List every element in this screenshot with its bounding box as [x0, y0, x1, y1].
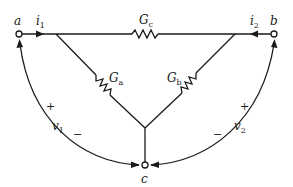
node-c-terminal [142, 162, 148, 168]
voltage-arc-v1 [20, 44, 139, 165]
v1-arrow-head-c [131, 162, 140, 169]
v1-arrow-head-a [17, 39, 24, 48]
v2-plus-sign: + [240, 100, 249, 113]
branch-a-wire-bottom [110, 95, 145, 128]
node-c-label: c [141, 172, 148, 186]
branch-b-wire-bottom [145, 93, 182, 128]
v1-minus-sign: − [73, 128, 82, 141]
v1-plus-sign: + [46, 100, 55, 113]
node-b-label: b [270, 14, 278, 28]
current-i2-arrow [250, 31, 258, 38]
branch-b-wire-top [196, 34, 235, 73]
resistor-gc [132, 30, 158, 38]
current-i1-arrow [36, 31, 44, 38]
v2-arrow-head-c [150, 162, 159, 169]
current-i1-label: i1 [36, 14, 45, 30]
resistor-gb [181, 73, 196, 93]
gc-label: Gc [139, 13, 154, 29]
v1-label: v1 [52, 119, 64, 135]
v2-minus-sign: − [213, 128, 222, 141]
current-i2-label: i2 [250, 14, 259, 30]
node-a-label: a [14, 14, 21, 28]
v2-label: v2 [234, 119, 246, 135]
v2-arrow-head-b [271, 39, 278, 48]
gb-label: Gb [167, 71, 182, 87]
node-b-terminal [271, 31, 277, 37]
node-a-terminal [16, 31, 22, 37]
circuit-diagram: a b c i1 i2 Gc Ga Gb + v1 − + v2 − [0, 0, 293, 187]
branch-a-wire-top [56, 34, 96, 75]
ga-label: Ga [109, 71, 124, 87]
